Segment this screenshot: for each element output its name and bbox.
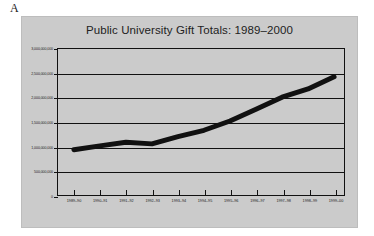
y-tick-label: 3,000,000,000 <box>31 47 53 51</box>
y-tick-label: 500,000,000 <box>34 170 53 174</box>
chart-title: Public University Gift Totals: 1989–2000 <box>21 24 358 36</box>
x-tick-label: 1996–97 <box>250 199 264 203</box>
x-tick-label: 1994–95 <box>198 199 212 203</box>
y-tick-label: 2,500,000,000 <box>31 72 53 76</box>
x-tick-label: 1999–00 <box>329 199 343 203</box>
chart-panel: Public University Gift Totals: 1989–2000… <box>21 16 358 228</box>
series-polyline <box>74 77 334 150</box>
gift-totals-line-series <box>58 49 344 195</box>
x-tick-label: 1997–98 <box>276 199 290 203</box>
x-tick-label: 1995–96 <box>224 199 238 203</box>
plot-area: 0500,000,0001,000,000,0001,500,000,0002,… <box>57 48 345 196</box>
x-tick-label: 1991–92 <box>119 199 133 203</box>
y-tick-label: 1,500,000,000 <box>31 121 53 125</box>
y-tick-mark <box>54 197 58 198</box>
x-tick-label: 1992–93 <box>145 199 159 203</box>
x-tick-label: 1990–91 <box>93 199 107 203</box>
x-tick-label: 1998–99 <box>303 199 317 203</box>
y-tick-label: 1,000,000,000 <box>31 146 53 150</box>
y-tick-label: 0 <box>51 195 53 199</box>
figure-label: A <box>10 1 19 15</box>
x-tick-label: 1993–94 <box>172 199 186 203</box>
x-tick-label: 1989–90 <box>67 199 81 203</box>
y-tick-label: 2,000,000,000 <box>31 96 53 100</box>
